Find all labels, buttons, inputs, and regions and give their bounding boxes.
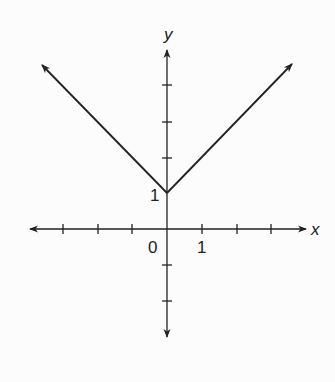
graph-canvas: y x 1 0 1	[0, 0, 335, 382]
x-axis-label: x	[310, 220, 320, 239]
y-axis-label: y	[163, 25, 174, 44]
y-axis	[162, 50, 172, 337]
x-axis	[30, 224, 306, 234]
x-tick-label-1: 1	[197, 238, 206, 257]
origin-label: 0	[148, 238, 157, 257]
y-tick-label-1: 1	[150, 186, 159, 205]
